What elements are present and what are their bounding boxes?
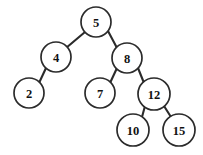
tree-canvas-svg: 54827121015 <box>0 0 203 155</box>
tree-edge <box>110 68 117 83</box>
tree-edge <box>66 32 85 48</box>
tree-node: 10 <box>117 114 149 146</box>
tree-node: 7 <box>85 78 115 108</box>
tree-node: 8 <box>112 43 142 73</box>
tree-node-label: 2 <box>26 87 32 101</box>
tree-node-label: 7 <box>97 87 103 101</box>
binary-tree-diagram: 54827121015 <box>0 0 203 155</box>
tree-edge <box>164 106 171 117</box>
tree-node-label: 5 <box>93 16 99 30</box>
tree-node-label: 12 <box>148 88 161 102</box>
tree-edge <box>108 31 117 48</box>
tree-node: 2 <box>14 78 44 108</box>
tree-node: 12 <box>138 78 170 110</box>
tree-node: 5 <box>81 7 111 37</box>
tree-node: 4 <box>41 42 71 72</box>
tree-node: 15 <box>163 114 195 146</box>
tree-edge <box>138 68 144 83</box>
tree-edge <box>39 68 46 83</box>
tree-node-label: 10 <box>127 124 140 138</box>
tree-node-label: 15 <box>173 124 186 138</box>
tree-node-label: 4 <box>53 51 60 65</box>
tree-node-label: 8 <box>124 52 130 66</box>
